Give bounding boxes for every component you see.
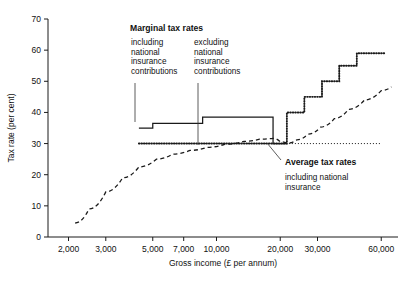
annotation-marginal-including-line-0: including	[131, 38, 164, 47]
y-tick-label: 50	[32, 76, 42, 86]
x-tick-label: 20,000	[267, 244, 293, 254]
annotation-marginal-excluding-line-3: contributions	[194, 67, 240, 76]
annotation-marginal-heading: Marginal tax rates	[130, 23, 203, 33]
axis-lines	[48, 19, 398, 237]
annotation-average-sub-line-0: including national	[285, 173, 348, 182]
annotation-marginal-excluding-line-2: insurance	[194, 57, 230, 66]
y-tick-label: 40	[32, 107, 42, 117]
annotation-marginal-including-line-2: insurance	[131, 57, 167, 66]
x-tick-label: 10,000	[203, 244, 229, 254]
annotation-marginal-excluding-line-0: excluding	[194, 38, 229, 47]
annotation-marginal-including-line-1: national	[131, 48, 160, 57]
y-tick-label: 30	[32, 139, 42, 149]
y-tick-label: 10	[32, 201, 42, 211]
annotation-average-heading: Average tax rates	[285, 157, 357, 167]
x-tick-label: 7,000	[173, 244, 195, 254]
annotation-average-sub-line-1: insurance	[285, 183, 321, 192]
tax-rate-chart: 0102030405060702,0003,0005,0007,00010,00…	[0, 0, 412, 285]
x-tick-label: 3,000	[95, 244, 117, 254]
leader-average-sub	[267, 143, 281, 160]
x-tick-label: 30,000	[305, 244, 331, 254]
x-axis-title: Gross income (£ per annum)	[169, 258, 277, 268]
annotation-marginal-including-line-3: contributions	[131, 67, 177, 76]
y-tick-label: 0	[36, 232, 41, 242]
x-tick-label: 2,000	[58, 244, 80, 254]
series-2	[75, 87, 391, 223]
chart-canvas: 0102030405060702,0003,0005,0007,00010,00…	[0, 0, 412, 285]
y-axis-title: Tax rate (per cent)	[6, 93, 16, 162]
y-tick-label: 60	[32, 45, 42, 55]
x-tick-label: 60,000	[368, 244, 394, 254]
x-tick-label: 5,000	[142, 244, 164, 254]
y-tick-label: 70	[32, 14, 42, 24]
annotation-marginal-excluding-line-1: national	[194, 48, 223, 57]
y-tick-label: 20	[32, 170, 42, 180]
